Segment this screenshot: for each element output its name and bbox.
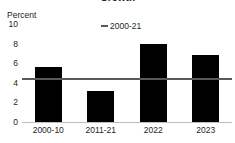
y-tick-label: 8 <box>13 39 18 48</box>
reference-line-2000-21 <box>22 78 232 80</box>
bar <box>140 44 167 122</box>
y-tick-label: 0 <box>13 118 18 127</box>
chart-figure: Growth Percent 2000-21 10 8 6 4 2 0 2000… <box>0 0 235 143</box>
chart-title-partial: Growth <box>0 0 235 4</box>
x-tick-label: 2000-10 <box>33 126 64 135</box>
y-tick-label: 6 <box>13 59 18 68</box>
y-tick-label: 10 <box>9 20 18 29</box>
y-tick-label: 2 <box>13 98 18 107</box>
x-axis-baseline <box>22 122 232 123</box>
plot-area: 10 8 6 4 2 0 2000-10 2011-21 2022 2023 <box>22 24 232 122</box>
x-tick-label: 2023 <box>196 126 215 135</box>
bar <box>35 67 62 122</box>
bar <box>192 55 219 122</box>
x-tick-label: 2011-21 <box>85 126 116 135</box>
x-tick-label: 2022 <box>144 126 163 135</box>
bar <box>87 91 114 122</box>
y-tick-label: 4 <box>13 79 18 88</box>
